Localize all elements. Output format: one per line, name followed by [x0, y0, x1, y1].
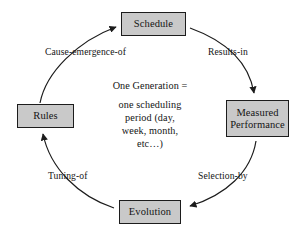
edge-label-tuning-of: Tuning-of [48, 170, 87, 181]
node-schedule-label: Schedule [122, 18, 185, 30]
node-rules-label: Rules [18, 110, 73, 122]
edge-label-selection-by: Selection-by [198, 170, 248, 181]
node-evolution[interactable]: Evolution [119, 200, 181, 224]
node-measured-performance-label: Measured Performance [227, 107, 288, 131]
node-rules[interactable]: Rules [17, 104, 74, 128]
node-measured-performance[interactable]: Measured Performance [226, 100, 289, 137]
center-note-body: one scheduling period (day, week, month,… [86, 98, 214, 150]
node-evolution-label: Evolution [120, 206, 180, 218]
edge-label-results-in: Results-in [208, 46, 248, 57]
edge-label-cause-emergence-of: Cause-emergence-of [45, 46, 126, 57]
center-note: One Generation = one scheduling period (… [86, 80, 214, 150]
node-schedule[interactable]: Schedule [121, 12, 186, 36]
cycle-diagram: Schedule Measured Performance Evolution … [0, 0, 300, 237]
center-note-heading: One Generation = [86, 80, 214, 91]
